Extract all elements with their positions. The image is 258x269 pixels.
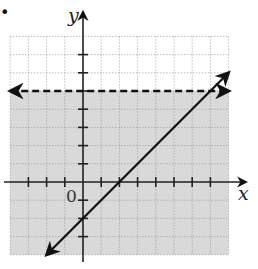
graph: • x y 0 xyxy=(0,0,258,269)
bullet-marker: • xyxy=(0,3,9,22)
y-axis-label: y xyxy=(67,4,79,26)
origin-label: 0 xyxy=(66,186,77,206)
x-axis-label: x xyxy=(238,182,249,204)
